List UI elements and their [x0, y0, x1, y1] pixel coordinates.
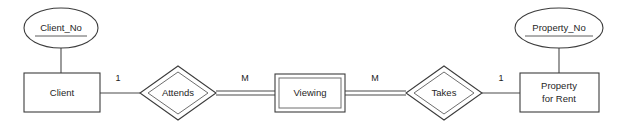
relationship-attends[interactable]: Attends — [140, 66, 216, 120]
takes-label: Takes — [432, 87, 457, 98]
property-for-rent-label-line1: Property — [541, 80, 577, 91]
property-no-label: Property_No — [532, 22, 585, 33]
cardinality-takes-property: 1 — [498, 73, 503, 83]
property-for-rent-label-line2: for Rent — [542, 93, 576, 104]
entity-viewing[interactable]: Viewing — [275, 74, 345, 112]
er-diagram-canvas: Client_No Property_No Client Viewing Pro… — [0, 0, 620, 131]
cardinality-attends-viewing: M — [241, 73, 249, 83]
client-label: Client — [50, 87, 75, 98]
cardinality-client-attends: 1 — [115, 73, 120, 83]
attends-label: Attends — [162, 87, 194, 98]
entity-client[interactable]: Client — [24, 73, 100, 112]
client-no-label: Client_No — [40, 22, 82, 33]
relationship-takes[interactable]: Takes — [406, 66, 482, 120]
attribute-property-no[interactable]: Property_No — [515, 8, 603, 48]
viewing-label: Viewing — [293, 87, 326, 98]
entity-property-for-rent[interactable]: Property for Rent — [520, 73, 599, 112]
attribute-client-no[interactable]: Client_No — [24, 8, 98, 48]
cardinality-viewing-takes: M — [371, 73, 379, 83]
